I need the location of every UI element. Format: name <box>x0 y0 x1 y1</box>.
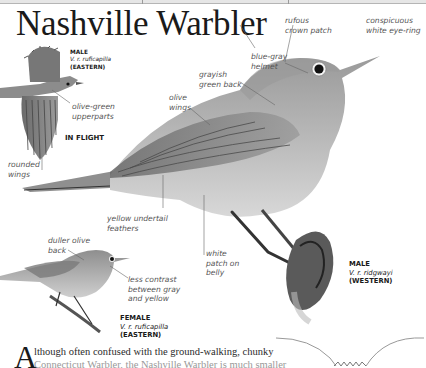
flight-bird-caption: MALE V. r. ruficapilla (EASTERN) <box>70 49 111 71</box>
bottom-curve-diagram <box>276 338 424 366</box>
female-bird-caption: FEMALE V. r. ruficapilla (EASTERN) <box>120 314 168 340</box>
label-rounded-wings: roundedwings <box>8 160 40 179</box>
female-bird-illustration <box>0 250 130 332</box>
label-white-belly-patch: whitepatch onbelly <box>206 249 239 278</box>
label-less-contrast: less contrastbetween grayand yellow <box>128 275 180 304</box>
label-olive-green-upperparts: olive-greenupperparts <box>72 102 115 121</box>
label-white-eye-ring: conspicuouswhite eye-ring <box>366 16 421 35</box>
label-rufous-crown-patch: rufouscrown patch <box>285 16 332 35</box>
body-paragraph: lthough often confused with the ground-w… <box>34 346 286 368</box>
bird-illustrations <box>0 0 426 368</box>
label-grayish-green-back: grayishgreen back <box>199 70 242 89</box>
in-flight-caption: IN FLIGHT <box>65 134 104 142</box>
main-bird-caption: MALE V. r. ridgwayi (WESTERN) <box>349 260 393 286</box>
label-olive-wings: olivewings <box>169 93 191 112</box>
label-yellow-undertail: yellow undertailfeathers <box>107 214 168 233</box>
label-duller-olive-back: duller oliveback <box>48 236 90 255</box>
label-blue-gray-helmet: blue-grayhelmet <box>251 52 287 71</box>
